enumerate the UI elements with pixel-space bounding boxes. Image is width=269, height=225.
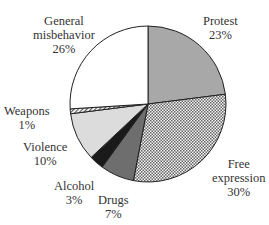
label-protest: Protest23% — [203, 14, 238, 42]
label-drugs: Drugs7% — [98, 193, 129, 221]
label-weapons: Weapons1% — [4, 104, 50, 132]
label-alcohol: Alcohol3% — [54, 179, 94, 207]
label-free-expression: Freeexpression30% — [212, 157, 265, 199]
label-general-misbehavior: Generalmisbehavior26% — [33, 14, 95, 56]
label-violence: Violence10% — [23, 140, 67, 168]
